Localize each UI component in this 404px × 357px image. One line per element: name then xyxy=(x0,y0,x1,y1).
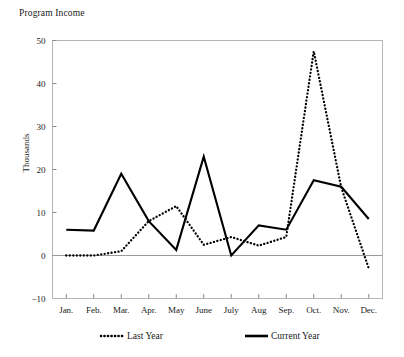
x-tick-label-Oct: Oct. xyxy=(306,305,321,315)
legend-label-last-year: Last Year xyxy=(127,331,164,341)
y-tick-label-50: 50 xyxy=(37,36,47,46)
x-tick-label-Mar: Mar. xyxy=(113,305,130,315)
program-income-chart: Program Income Thousands 50403020100−10 … xyxy=(0,0,404,357)
x-axis-ticks xyxy=(66,294,369,299)
x-tick-label-June: June xyxy=(196,305,213,315)
plot-area-border xyxy=(53,41,383,299)
x-tick-label-Aug: Aug xyxy=(251,305,267,315)
x-tick-label-Sep: Sep. xyxy=(278,305,294,315)
x-axis-tick-labels: Jan.Feb.Mar.Apr.MayJuneJulyAugSep.Oct.No… xyxy=(59,305,377,315)
x-tick-label-May: May xyxy=(168,305,185,315)
y-tick-label-20: 20 xyxy=(37,165,47,175)
plot-canvas: 50403020100−10 Jan.Feb.Mar.Apr.MayJuneJu… xyxy=(0,0,404,357)
legend-label-current-year: Current Year xyxy=(271,331,320,341)
y-tick-label-10: 10 xyxy=(37,208,47,218)
y-tick-label-40: 40 xyxy=(37,79,47,89)
x-tick-label-Apr: Apr. xyxy=(141,305,157,315)
data-series-group xyxy=(66,51,369,268)
x-tick-label-Jan: Jan. xyxy=(59,305,73,315)
y-tick-label-0: 0 xyxy=(41,251,46,261)
y-axis-ticks xyxy=(53,41,57,256)
y-tick-label-30: 30 xyxy=(37,122,47,132)
x-tick-label-Nov: Nov. xyxy=(333,305,350,315)
y-tick-label--10: −10 xyxy=(31,294,46,304)
y-axis-tick-labels: 50403020100−10 xyxy=(31,36,46,304)
plot-frame xyxy=(53,41,383,299)
x-tick-label-Feb: Feb. xyxy=(86,305,102,315)
x-tick-label-July: July xyxy=(224,305,240,315)
chart-legend: Last YearCurrent Year xyxy=(101,331,320,341)
x-tick-label-Dec: Dec. xyxy=(360,305,377,315)
series-line-last-year xyxy=(66,51,369,268)
